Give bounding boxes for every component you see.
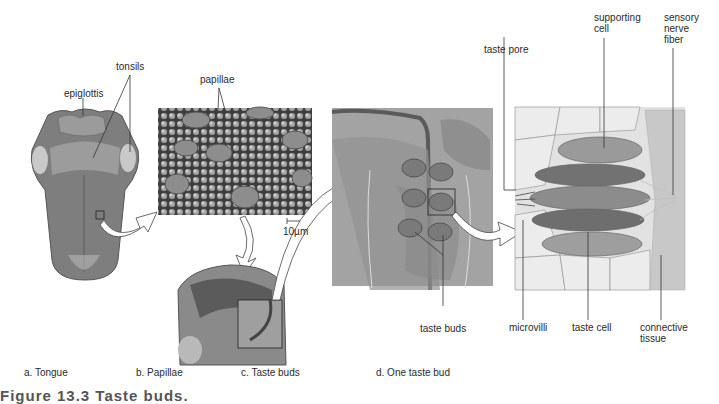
label-tonsils: tonsils xyxy=(116,61,144,72)
caption-taste-buds: c. Taste buds xyxy=(241,367,300,378)
label-sensory-nerve-fiber: sensory nerve fiber xyxy=(664,12,699,45)
label-microvilli: microvilli xyxy=(509,322,547,333)
label-taste-pore: taste pore xyxy=(484,44,528,55)
tongue-illustration xyxy=(31,109,139,280)
caption-one-taste-bud: d. One taste bud xyxy=(376,367,450,378)
taste-buds-section xyxy=(332,108,493,290)
figure-caption: Figure 13.3 Taste buds. xyxy=(0,387,189,404)
label-connective-tissue: connective tissue xyxy=(640,322,688,344)
papilla-cross-section xyxy=(178,265,286,365)
papillae-micrograph xyxy=(158,107,312,215)
single-taste-bud xyxy=(515,107,685,290)
label-taste-buds: taste buds xyxy=(420,323,466,334)
label-epiglottis: epiglottis xyxy=(64,88,103,99)
label-supporting-cell: supporting cell xyxy=(594,12,641,34)
label-papillae: papillae xyxy=(200,74,234,85)
caption-tongue: a. Tongue xyxy=(24,367,68,378)
caption-papillae: b. Papillae xyxy=(136,367,183,378)
label-scale: 10µm xyxy=(283,226,308,237)
label-taste-cell: taste cell xyxy=(572,322,611,333)
